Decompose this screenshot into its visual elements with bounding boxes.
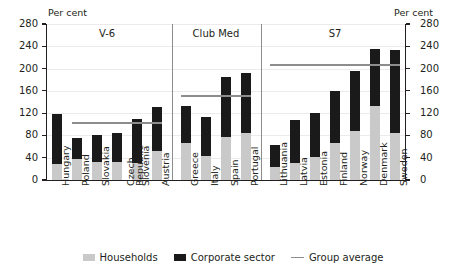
left-axis-tick-label-160: 160	[0, 86, 38, 96]
right-axis-tick-label-280: 280	[420, 19, 450, 29]
right-axis-tick-80	[406, 135, 410, 136]
left-axis-unit-label: Per cent	[48, 7, 87, 18]
category-label-latvia: Latvia	[299, 157, 309, 186]
category-label-greece: Greece	[190, 152, 200, 186]
right-axis-tick-label-240: 240	[420, 41, 450, 51]
group-average-line-v-6	[72, 122, 162, 124]
bar-segment-corporate	[330, 91, 340, 143]
left-axis-tick-label-280: 280	[0, 19, 38, 29]
gridline-200	[47, 69, 405, 70]
right-axis-tick-label-160: 160	[420, 86, 450, 96]
legend-item-group-average[interactable]: Group average	[291, 252, 384, 263]
right-axis-unit-label: Per cent	[394, 7, 433, 18]
bar-segment-corporate	[201, 117, 211, 156]
bar-segment-corporate	[241, 73, 251, 133]
category-label-slovakia: Slovakia	[101, 146, 111, 186]
right-axis-tick-label-120: 120	[420, 108, 450, 118]
legend-line-swatch	[291, 257, 304, 259]
right-axis-tick-280	[406, 23, 410, 24]
right-axis-tick-label-40: 40	[420, 153, 450, 163]
gridline-240	[47, 46, 405, 47]
bar-segment-corporate	[390, 50, 400, 132]
legend-box-swatch	[174, 254, 186, 261]
left-axis-tick-label-200: 200	[0, 64, 38, 74]
left-axis-line	[46, 24, 47, 181]
group-average-line-s7	[270, 64, 400, 66]
category-label-italy: Italy	[210, 165, 220, 186]
bar-segment-corporate	[181, 106, 191, 143]
category-label-lithuania: Lithuania	[279, 142, 289, 186]
left-axis-tick-label-0: 0	[0, 175, 38, 185]
gridline-280	[47, 24, 405, 25]
stacked-bar-chart: Per cent Per cent 0040408080120120160160…	[0, 0, 466, 279]
legend-item-households[interactable]: Households	[83, 252, 158, 263]
right-axis-tick-200	[406, 68, 410, 69]
category-label-hungary: Hungary	[61, 145, 71, 186]
legend-box-swatch	[83, 254, 95, 261]
group-separator-2	[261, 24, 262, 180]
bar-segment-corporate	[152, 107, 162, 151]
left-axis-tick-label-80: 80	[0, 130, 38, 140]
group-title-club-med: Club Med	[193, 28, 240, 39]
bar-segment-corporate	[350, 71, 360, 131]
category-label-sweden: Sweden	[399, 148, 409, 186]
group-average-line-club-med	[181, 95, 251, 97]
group-separator-1	[172, 24, 173, 180]
category-label-estonia: Estonia	[319, 151, 329, 186]
left-axis-tick-label-40: 40	[0, 153, 38, 163]
right-axis-tick-label-0: 0	[420, 175, 450, 185]
legend-label: Households	[100, 252, 158, 263]
legend-label: Corporate sector	[191, 252, 275, 263]
right-axis-tick-160	[406, 90, 410, 91]
left-axis-tick-label-240: 240	[0, 41, 38, 51]
right-axis-tick-120	[406, 113, 410, 114]
legend-item-corporate-sector[interactable]: Corporate sector	[174, 252, 275, 263]
category-label-poland: Poland	[81, 154, 91, 186]
category-label-slovenia: Slovenia	[141, 146, 151, 186]
right-axis-tick-label-200: 200	[420, 64, 450, 74]
table-row	[112, 133, 122, 180]
category-label-finland: Finland	[339, 152, 349, 186]
bar-segment-corporate	[221, 77, 231, 137]
bar-segment-households	[112, 162, 122, 180]
right-axis-tick-label-80: 80	[420, 130, 450, 140]
category-label-denmark: Denmark	[379, 142, 389, 186]
bar-segment-corporate	[310, 113, 320, 157]
chart-legend: HouseholdsCorporate sectorGroup average	[0, 252, 466, 263]
category-label-spain: Spain	[230, 159, 240, 186]
group-title-v-6: V-6	[99, 28, 115, 39]
right-axis-tick-240	[406, 46, 410, 47]
category-label-portugal: Portugal	[250, 147, 260, 186]
legend-label: Group average	[309, 252, 384, 263]
category-label-norway: Norway	[359, 150, 369, 186]
bar-segment-corporate	[112, 133, 122, 161]
left-axis-tick-label-120: 120	[0, 108, 38, 118]
bar-segment-corporate	[370, 49, 380, 107]
category-label-austria: Austria	[161, 152, 171, 186]
group-title-s7: S7	[329, 28, 342, 39]
